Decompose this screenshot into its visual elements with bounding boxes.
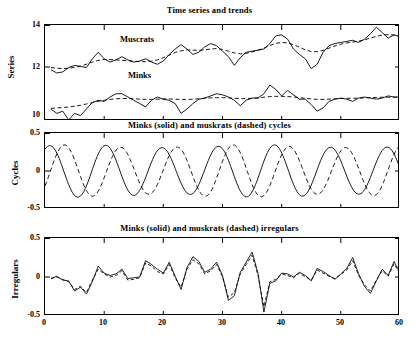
irregulars-svg	[45, 238, 399, 315]
irregular-line-muskrats	[51, 255, 399, 306]
y-tick-cycles-pos: 0.5	[10, 128, 40, 137]
panel-cycles: Minks (solid) and muskrats (dashed) cycl…	[0, 118, 419, 218]
plot-area-cycles	[44, 132, 399, 208]
panel-title-cycles: Minks (solid) and muskrats (dashed) cycl…	[0, 120, 419, 130]
panel-series-trends: Time series and trends Series 14 12 10	[0, 0, 419, 128]
inner-tick-marks	[45, 25, 399, 120]
x-tick-10: 10	[93, 318, 113, 327]
cycle-line-muskrats	[45, 145, 399, 197]
panel-irregulars: Minks (solid) and muskrats (dashed) irre…	[0, 222, 419, 341]
series-line-muscrats	[51, 27, 399, 73]
cycles-svg	[45, 133, 399, 208]
y-tick-irregulars-pos: 0.5	[10, 233, 40, 242]
x-tick-50: 50	[330, 318, 350, 327]
y-axis-label-series: Series	[6, 39, 16, 95]
irregular-line-minks	[51, 252, 399, 312]
inner-tick-marks	[45, 133, 399, 208]
plot-area-irregulars	[44, 237, 399, 315]
panel-title-series-trends: Time series and trends	[0, 5, 419, 15]
x-tick-0: 0	[34, 318, 54, 327]
figure-canvas: Time series and trends Series 14 12 10	[0, 0, 419, 341]
x-tick-30: 30	[212, 318, 232, 327]
x-tick-40: 40	[271, 318, 291, 327]
y-tick-series-14: 14	[16, 20, 40, 29]
trend-line-muscrats	[51, 35, 399, 69]
y-tick-irregulars-zero: 0	[10, 272, 40, 281]
annotation-minks: Minks	[128, 70, 151, 80]
x-tick-20: 20	[152, 318, 172, 327]
series-trends-svg	[45, 25, 399, 120]
plot-area-series-trends	[44, 24, 399, 120]
series-line-minks	[51, 85, 399, 120]
trend-line-minks	[51, 96, 399, 108]
cycle-line-minks	[45, 145, 399, 197]
y-tick-series-12: 12	[16, 62, 40, 71]
x-tick-60: 60	[389, 318, 409, 327]
panel-title-irregulars: Minks (solid) and muskrats (dashed) irre…	[0, 223, 419, 233]
annotation-muscrats: Muscrats	[120, 34, 154, 44]
y-tick-cycles-zero: 0	[10, 166, 40, 175]
y-tick-cycles-neg: -0.5	[10, 203, 40, 212]
